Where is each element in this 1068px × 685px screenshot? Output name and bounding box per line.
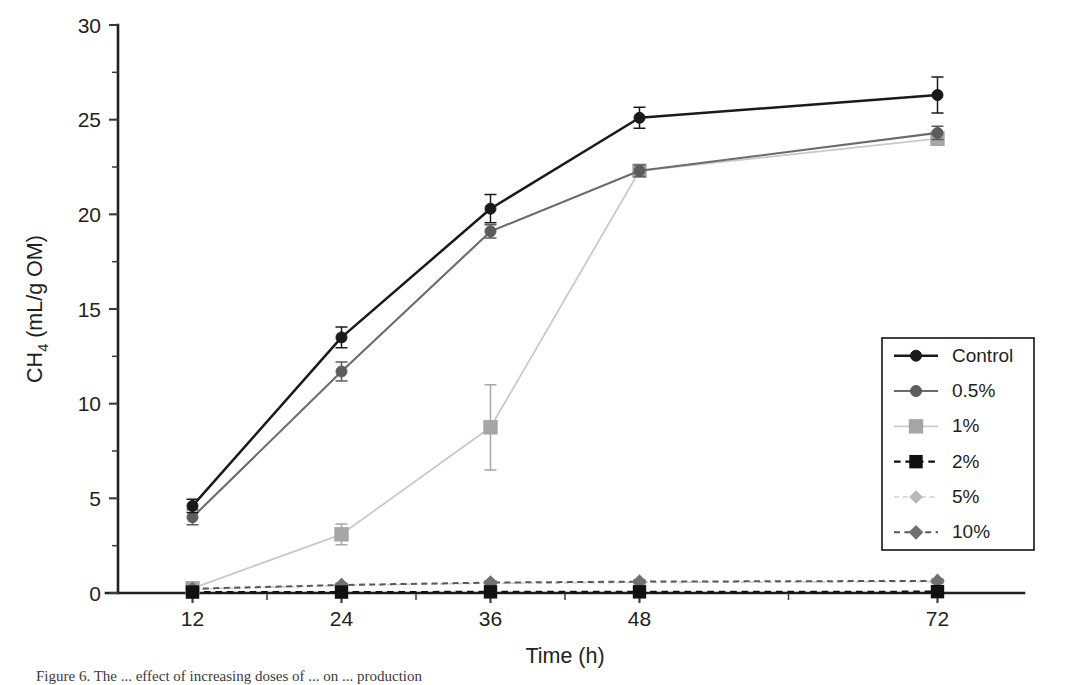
data-point-marker — [634, 165, 645, 176]
y-tick-label: 15 — [78, 298, 101, 321]
data-point-marker — [335, 528, 348, 541]
y-axis-title-subscript: 4 — [35, 344, 51, 352]
y-tick-label: 30 — [78, 14, 101, 37]
data-point-marker — [932, 586, 944, 598]
y-axis-title: CH4 (mL/g OM) — [23, 235, 51, 383]
series-line — [193, 582, 938, 590]
y-tick-label: 10 — [78, 392, 101, 415]
legend-label: 0.5% — [952, 380, 995, 401]
y-axis-title-units: (mL/g OM) — [23, 235, 47, 344]
series-line — [193, 139, 938, 589]
data-point-marker — [911, 386, 922, 397]
data-point-marker — [932, 127, 943, 138]
y-tick-label: 20 — [78, 203, 101, 226]
x-axis-title: Time (h) — [525, 644, 604, 668]
series-control — [187, 77, 944, 512]
data-point-marker — [336, 586, 348, 598]
data-point-marker — [336, 366, 347, 377]
x-tick-label: 24 — [330, 607, 354, 630]
x-tick-label: 48 — [628, 607, 651, 630]
data-point-marker — [911, 350, 922, 361]
data-point-marker — [910, 456, 922, 468]
y-tick-label: 0 — [89, 582, 101, 605]
y-tick-label: 25 — [78, 108, 101, 131]
series-line — [193, 133, 938, 517]
x-tick-label: 12 — [181, 607, 204, 630]
legend-background — [882, 338, 1034, 550]
y-tick-label: 5 — [89, 487, 101, 510]
data-point-marker — [485, 203, 496, 214]
legend: Control0.5%1%2%5%10% — [882, 338, 1034, 550]
data-point-marker — [485, 226, 496, 237]
data-point-marker — [484, 421, 497, 434]
data-point-marker — [910, 420, 923, 433]
x-tick-label: 72 — [926, 607, 949, 630]
legend-label: 5% — [952, 486, 980, 507]
x-tick-label: 36 — [479, 607, 502, 630]
figure-caption: Figure 6. The ... effect of increasing d… — [36, 668, 1036, 685]
data-point-marker — [485, 586, 497, 598]
legend-label: Control — [952, 345, 1013, 366]
data-point-marker — [187, 586, 199, 598]
data-point-marker — [336, 332, 347, 343]
legend-label: 2% — [952, 451, 980, 472]
data-point-marker — [932, 90, 943, 101]
data-point-marker — [187, 512, 198, 523]
data-point-marker — [187, 500, 198, 511]
series-05 — [187, 126, 944, 525]
data-point-marker — [634, 586, 646, 598]
y-axis-title-main: CH — [23, 352, 47, 383]
legend-label: 10% — [952, 521, 990, 542]
legend-label: 1% — [952, 415, 980, 436]
data-point-marker — [634, 112, 645, 123]
